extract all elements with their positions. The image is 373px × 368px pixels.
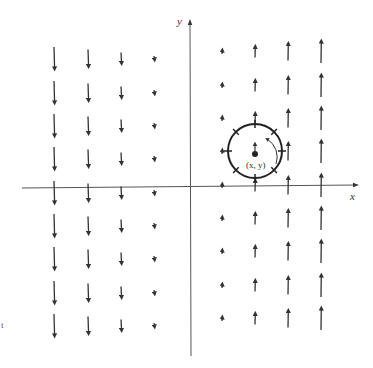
vector-arrow: [121, 287, 122, 298]
vector-arrow: [121, 120, 122, 131]
vector-arrow: [88, 250, 89, 267]
vector-arrow: [54, 81, 55, 103]
vector-arrow: [54, 247, 55, 269]
vector-arrow: [88, 284, 89, 301]
vector-arrow: [88, 84, 89, 101]
rotation-arrow-icon: [267, 139, 277, 164]
vector-arrow: [54, 314, 55, 336]
vector-arrow: [54, 181, 55, 203]
vector-arrow: [88, 317, 89, 334]
vector-arrow: [54, 147, 55, 169]
vector-field-diagram: x y (x, y) t: [0, 0, 373, 368]
vector-arrow: [154, 223, 155, 227]
vector-arrow: [154, 90, 155, 94]
vector-arrow: [121, 320, 122, 331]
point-label: (x, y): [246, 160, 266, 170]
vector-arrow: [54, 47, 55, 69]
vector-arrow: [88, 184, 89, 201]
vector-arrow: [88, 217, 89, 234]
vector-field-arrows: [54, 41, 321, 336]
vector-arrow: [154, 156, 155, 160]
paddle-wheel: (x, y): [224, 120, 286, 182]
vector-arrow: [88, 150, 89, 167]
vector-arrow: [121, 253, 122, 264]
y-axis-label: y: [176, 15, 182, 27]
x-axis-label: x: [349, 190, 355, 202]
y-axis: [190, 22, 191, 356]
vector-arrow: [154, 323, 155, 327]
vector-arrow: [54, 281, 55, 303]
vector-arrow: [54, 114, 55, 136]
vector-arrow: [154, 123, 155, 127]
x-axis: [22, 185, 356, 188]
vector-arrow: [54, 214, 55, 236]
vector-arrow: [121, 87, 122, 98]
vector-arrow: [154, 256, 155, 260]
vector-arrow: [88, 117, 89, 134]
vector-arrow: [121, 53, 122, 64]
vector-arrow: [121, 153, 122, 164]
vector-arrow: [154, 290, 155, 294]
vector-arrow: [88, 50, 89, 67]
vector-arrow: [154, 56, 155, 60]
margin-mark: t: [1, 320, 4, 330]
vector-arrow: [121, 187, 122, 198]
vector-arrow: [121, 220, 122, 231]
vector-arrow: [154, 190, 155, 194]
